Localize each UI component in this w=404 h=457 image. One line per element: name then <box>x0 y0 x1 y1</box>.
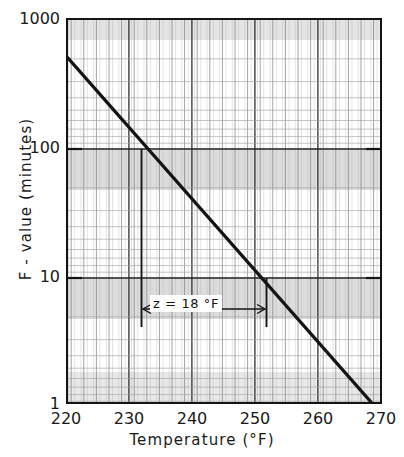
clipped-caption-remnant: . . . . . . . . . . . <box>0 0 404 6</box>
chart-figure: . . . . . . . . . . . <box>0 0 404 457</box>
grid-layer <box>68 20 380 402</box>
x-tick-label-240: 240 <box>162 409 222 428</box>
x-tick-label-260: 260 <box>288 409 348 428</box>
x-tick-label-270: 270 <box>351 409 404 428</box>
y-tick-label-1000: 1000 <box>6 9 60 28</box>
x-tick-label-230: 230 <box>99 409 159 428</box>
x-axis-title: Temperature (°F) <box>0 431 404 449</box>
x-tick-label-250: 250 <box>225 409 285 428</box>
plot-frame <box>66 18 382 404</box>
y-axis-title: F - value (minutes) <box>17 99 35 299</box>
z-value-annotation-label: z = 18 °F <box>150 295 222 312</box>
grid-vertical-minor <box>68 20 380 402</box>
grid-and-data-svg <box>68 20 380 402</box>
x-tick-label-220: 220 <box>36 409 96 428</box>
